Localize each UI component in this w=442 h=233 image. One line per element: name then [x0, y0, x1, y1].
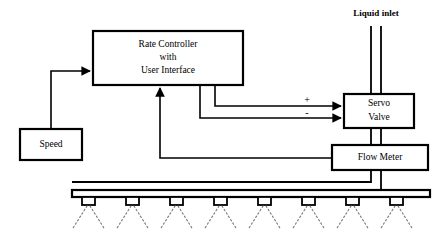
flow-meter-label: Flow Meter — [358, 152, 403, 162]
nozzle — [214, 197, 227, 205]
speed-label: Speed — [39, 139, 62, 149]
spray-cone — [117, 206, 148, 228]
spray-cone — [249, 206, 280, 228]
block-rate-controller[interactable]: Rate Controller with User Interface — [93, 31, 243, 85]
valve-to-meter-pipe — [371, 128, 381, 145]
controller-plus-signal — [215, 85, 341, 106]
spray-cone — [73, 206, 104, 228]
spray-cone — [161, 206, 192, 228]
spray-cone — [337, 206, 368, 228]
nozzle — [258, 197, 271, 205]
spray-cone — [205, 206, 236, 228]
plus-sign-label: + — [304, 94, 310, 105]
liquid-inlet-label: Liquid inlet — [353, 8, 398, 18]
rate-controller-label-line1: Rate Controller — [139, 39, 199, 49]
rate-controller-label-line3: User Interface — [141, 65, 195, 75]
nozzle — [302, 197, 315, 205]
servo-valve-label-line1: Servo — [368, 98, 390, 108]
nozzle — [82, 197, 95, 205]
spray-cone — [293, 206, 324, 228]
spray-cone — [381, 206, 412, 228]
nozzle — [346, 197, 359, 205]
controller-minus-signal — [200, 85, 341, 118]
nozzle — [126, 197, 139, 205]
diagram-svg: Liquid inlet + - — [0, 0, 442, 233]
spray-pattern-group — [73, 206, 412, 228]
block-flow-meter[interactable]: Flow Meter — [332, 145, 428, 170]
nozzle — [170, 197, 183, 205]
rate-controller-label-line2: with — [160, 52, 177, 62]
servo-valve-label-line2: Valve — [368, 112, 390, 122]
nozzle-group — [82, 197, 403, 205]
speed-to-controller-signal — [51, 71, 90, 129]
spray-boom-bar — [72, 190, 430, 197]
liquid-inlet-pipe — [371, 26, 381, 94]
meter-to-boom-pipe — [72, 170, 381, 190]
block-servo-valve[interactable]: Servo Valve — [344, 94, 414, 128]
nozzle — [390, 197, 403, 205]
block-diagram-canvas: Liquid inlet + - — [0, 0, 442, 233]
minus-sign-label: - — [305, 107, 308, 118]
block-speed[interactable]: Speed — [20, 129, 82, 160]
